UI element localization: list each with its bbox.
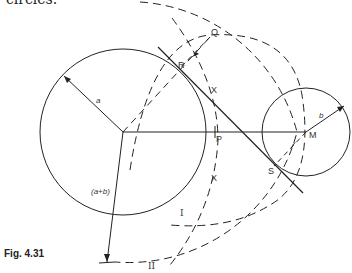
arrowhead-a-plus-b xyxy=(104,254,110,262)
radius-a-plus-b-line xyxy=(107,132,123,262)
cross-lower: X xyxy=(211,173,217,183)
radius-a-line xyxy=(64,76,123,132)
geometry-diagram: a b (a+b) Q R P M S I II X X xyxy=(0,0,352,273)
label-a: a xyxy=(96,96,101,105)
label-Q: Q xyxy=(211,27,218,37)
label-arc-II: II xyxy=(148,261,156,271)
label-b: b xyxy=(319,111,324,120)
figure-caption: Fig. 4.31 xyxy=(4,248,44,259)
label-S: S xyxy=(268,166,274,176)
label-R: R xyxy=(178,60,185,70)
label-P: P xyxy=(216,134,222,144)
dashed-line-centre-to-Q xyxy=(123,37,210,132)
label-a-plus-b: (a+b) xyxy=(91,187,110,196)
label-M: M xyxy=(309,130,317,140)
label-arc-I: I xyxy=(180,208,184,218)
arc-II-tick xyxy=(99,262,115,263)
cross-upper: X xyxy=(211,85,217,95)
